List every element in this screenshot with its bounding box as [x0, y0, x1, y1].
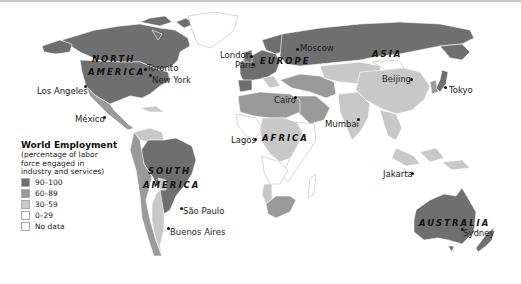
- legend-subtitle: (percentage of labor force engaged in in…: [21, 151, 116, 177]
- legend-swatch: [21, 200, 30, 209]
- city-label-moscow: Moscow: [300, 44, 334, 53]
- city-label-beijing: Beijing: [382, 75, 411, 84]
- legend-label: 0–29: [35, 211, 53, 220]
- city-label-tokyo: Tokyo: [449, 86, 473, 95]
- city-label-lagos: Lagos: [231, 136, 256, 145]
- city-label-london: London: [220, 51, 251, 60]
- balkans: [262, 76, 280, 88]
- region-label-africa: AFRICA: [262, 134, 309, 143]
- legend-item-no-data: No data: [21, 221, 117, 232]
- region-label-asia: ASIA: [372, 50, 402, 59]
- russia-far-east: [440, 44, 470, 60]
- greenland: [188, 12, 238, 48]
- legend-label: No data: [35, 222, 64, 231]
- iberia: [238, 80, 252, 92]
- region-label-europe: EUROPE: [260, 57, 311, 66]
- indonesia: [392, 148, 470, 170]
- region-label-south-america: SOUTH: [148, 167, 191, 176]
- legend-item-60-89: 60–89: [21, 188, 117, 199]
- region-label-australia: AUSTRALIA: [419, 219, 490, 228]
- city-marker-tokyo: [444, 86, 447, 89]
- legend-item-90-100: 90–100: [21, 177, 117, 188]
- legend-swatch: [21, 222, 30, 231]
- region-label-north-america-2: AMERICA: [88, 68, 145, 77]
- city-label-cairo: Cairo: [274, 96, 296, 105]
- legend-label: 90–100: [35, 178, 63, 187]
- legend-item-0-29: 0–29: [21, 210, 117, 221]
- city-label-new-york: New York: [152, 76, 191, 85]
- city-label-toronto: Toronto: [147, 64, 178, 73]
- city-marker-moscow: [296, 48, 299, 51]
- city-label-sydney: Sydney: [463, 229, 494, 238]
- southeast-asia: [380, 110, 402, 140]
- city-label-sao-paulo: São Paulo: [183, 207, 224, 216]
- tasmania: [448, 246, 454, 252]
- legend-swatch: [21, 211, 30, 220]
- city-label-jakarta: Jakarta: [383, 170, 413, 179]
- city-label-buenos-aires: Buenos Aires: [170, 228, 225, 237]
- city-label-los-angeles: Los Angeles: [37, 87, 88, 96]
- legend-label: 60–89: [35, 189, 58, 198]
- city-label-mumbai: Mumbai: [325, 120, 359, 129]
- city-label-paris: Paris: [235, 61, 255, 70]
- legend-swatch: [21, 189, 30, 198]
- caribbean: [140, 106, 164, 112]
- india: [338, 92, 370, 140]
- madagascar: [308, 174, 316, 198]
- map-legend: World Employment (percentage of labor fo…: [21, 141, 117, 232]
- region-label-south-america-2: AMERICA: [143, 181, 200, 190]
- legend-label: 30–59: [35, 200, 58, 209]
- legend-item-30-59: 30–59: [21, 199, 117, 210]
- city-label-mexico: México: [75, 115, 105, 124]
- region-label-north-america: NORTH: [92, 55, 135, 64]
- legend-swatch: [21, 178, 30, 187]
